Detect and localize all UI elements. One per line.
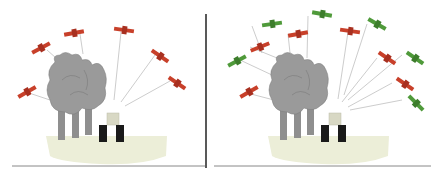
trees — [47, 53, 106, 141]
satellite-red — [340, 26, 361, 37]
diagram-canvas — [0, 0, 443, 181]
satellite-red — [395, 75, 416, 93]
satellite-red — [30, 40, 51, 56]
satellite-red — [287, 28, 308, 39]
trees — [269, 53, 328, 141]
satellite-green — [405, 49, 426, 67]
satellite-green — [311, 8, 332, 19]
right-panel — [214, 8, 431, 166]
satellite-red — [63, 27, 84, 38]
satellite-green — [366, 16, 387, 33]
satellite-red — [377, 49, 398, 67]
satellite-green — [262, 19, 283, 30]
satellite-red — [167, 74, 188, 92]
satellite-red — [16, 84, 37, 101]
left-panel — [12, 25, 205, 166]
satellite-green — [406, 93, 426, 113]
satellite-red — [249, 40, 271, 55]
satellite-green — [226, 53, 247, 69]
satellite-red — [114, 25, 135, 36]
satellite-red — [238, 84, 259, 101]
satellite-red — [150, 47, 171, 65]
